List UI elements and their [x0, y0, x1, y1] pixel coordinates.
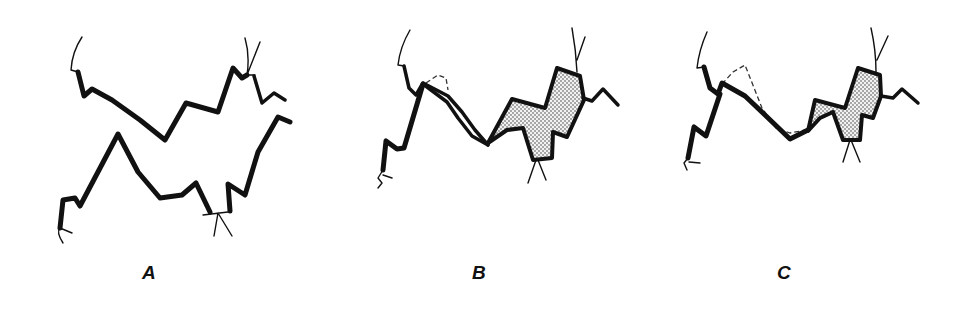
panel-a — [59, 37, 290, 243]
panel-b-stippled-zone — [488, 68, 584, 160]
panel-b-left-line — [383, 84, 423, 170]
panel-c-left-line — [688, 94, 720, 158]
panel-a-upper-right-fragment — [254, 76, 285, 103]
panel-a-upper-line-thin — [71, 37, 82, 72]
panel-b-bottom-fork — [528, 160, 546, 183]
panel-c-bottom-fork — [843, 140, 860, 162]
panel-a-upper-fork — [245, 38, 260, 75]
panel-b-top-thin — [398, 30, 410, 66]
panel-b-top-fork — [572, 28, 585, 72]
panel-a-lower-fork — [203, 212, 232, 236]
panel-c-stippled-zone — [808, 68, 881, 140]
panel-a-upper-line — [78, 68, 247, 140]
panel-label-b: B — [472, 262, 486, 284]
panel-c-top-thin — [697, 32, 707, 68]
panel-b-right-branch — [583, 89, 618, 105]
panel-label-a: A — [142, 262, 156, 284]
panel-a-lower-line — [60, 134, 210, 228]
panel-c-dashed-outline — [722, 65, 810, 133]
panel-b — [378, 28, 618, 188]
panel-b-bottom-hook — [378, 170, 392, 188]
panel-label-c: C — [777, 262, 791, 284]
panel-c — [684, 28, 918, 170]
panel-a-lower-right-line — [228, 117, 290, 211]
panel-c-top-fork — [871, 28, 888, 72]
panel-c-right-branch — [881, 89, 918, 103]
panel-c-bottom-hook — [684, 158, 700, 170]
